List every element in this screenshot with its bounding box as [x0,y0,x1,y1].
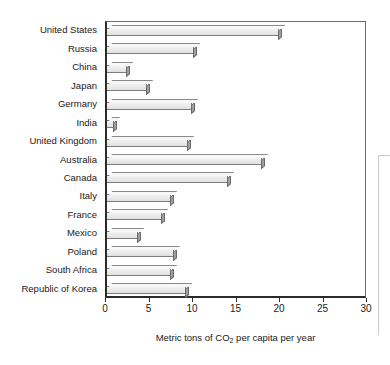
x-tick [279,298,280,302]
bar-top-bevel [109,43,200,47]
category-label: France [67,209,97,220]
x-tick [236,298,237,302]
bar [107,283,189,294]
bar-side-cap [146,83,150,95]
bar-top-bevel [109,62,133,66]
x-tick-label: 30 [351,303,381,315]
category-label: India [76,117,97,128]
bar-top-bevel [109,154,268,158]
bar [107,154,265,165]
bar-face [107,83,147,91]
co2-per-capita-bar-chart: United StatesRussiaChinaJapanGermanyIndi… [0,0,390,365]
x-tick-label: 20 [264,303,294,315]
bar [107,172,231,183]
bar [107,191,174,202]
page-margin-rule-cap [378,155,390,156]
x-tick-label: 5 [134,303,164,315]
bar-face [107,286,186,294]
bar-top-bevel [109,136,195,140]
bar-top-bevel [109,191,177,195]
page-margin-rule [378,155,379,335]
bar [107,62,130,73]
category-label: Republic of Korea [21,283,97,294]
bar-face [107,175,228,183]
x-tick-label: 10 [177,303,207,315]
bar-side-cap [191,102,195,114]
x-tick [149,298,150,302]
x-tick [323,298,324,302]
bar-face [107,194,171,202]
x-tick [366,298,367,302]
bar-side-cap [193,46,197,58]
bar-face [107,157,262,165]
category-label: United States [40,24,97,35]
bar-top-bevel [109,283,192,287]
category-label: Italy [80,190,97,201]
bar [107,80,150,91]
bar-top-bevel [109,209,168,213]
bar-face [107,249,174,257]
bar-face [107,212,162,220]
bar-top-bevel [109,99,198,103]
bar-side-cap [187,139,191,151]
bar [107,43,197,54]
category-label: Canada [64,172,97,183]
bar-top-bevel [109,265,177,269]
bar-side-cap [170,268,174,280]
category-label: Australia [60,154,97,165]
category-axis-labels: United StatesRussiaChinaJapanGermanyIndi… [0,21,101,298]
bar-side-cap [137,231,141,243]
bar-top-bevel [109,172,235,176]
x-tick-label: 25 [308,303,338,315]
x-axis-title-after: per capita per year [233,332,315,343]
bar-side-cap [278,28,282,40]
x-tick [105,298,106,302]
bar [107,117,117,128]
category-label: United Kingdom [29,135,97,146]
x-tick-label: 15 [221,303,251,315]
bar [107,99,195,110]
bar-side-cap [161,212,165,224]
category-label: China [72,61,97,72]
bar [107,246,177,257]
bar-top-bevel [109,80,153,84]
bar [107,136,191,147]
x-axis-title: Metric tons of CO2 per capita per year [105,332,366,345]
x-axis-title-before: Metric tons of CO [156,332,230,343]
x-axis-title-subscript: 2 [230,337,234,344]
category-label: South Africa [46,264,97,275]
bar-side-cap [113,120,117,132]
x-tick-label: 0 [90,303,120,315]
bar-side-cap [170,194,174,206]
bar-side-cap [173,249,177,261]
bar-top-bevel [109,246,180,250]
bar [107,228,141,239]
bar-top-bevel [109,25,285,29]
category-label: Mexico [67,227,97,238]
bar [107,209,165,220]
bar-top-bevel [109,228,144,232]
bar-top-bevel [109,117,121,121]
bar-side-cap [185,286,189,298]
bar-face [107,46,194,54]
bar [107,25,282,36]
category-label: Japan [71,80,97,91]
category-label: Russia [68,43,97,54]
bar-side-cap [261,157,265,169]
category-label: Poland [67,246,97,257]
category-label: Germany [58,98,97,109]
bar-series [107,21,366,298]
bar-side-cap [126,65,130,77]
bar-side-cap [227,175,231,187]
bar [107,265,174,276]
bar-face [107,231,138,239]
x-tick [192,298,193,302]
